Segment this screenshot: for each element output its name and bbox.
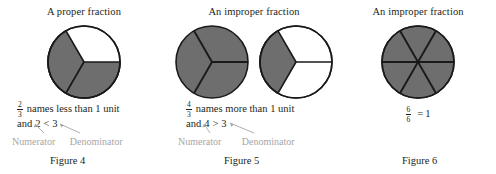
- right-value: 3: [52, 118, 57, 131]
- fraction-2-3: 2 3: [17, 101, 23, 118]
- fraction-numerator: 6: [406, 106, 412, 114]
- pie-row: [340, 24, 496, 104]
- panel-heading: An improper fraction: [340, 6, 496, 17]
- part-labels-row: Numerator Denominator: [0, 136, 180, 147]
- statement-line-1: 4 3 names more than 1 unit: [186, 101, 358, 118]
- equation-result: 1: [425, 108, 430, 119]
- panel-heading: A proper fraction: [0, 6, 168, 17]
- statement-line-2: and 2 < 3: [17, 118, 185, 131]
- pie-area: [168, 24, 340, 104]
- fraction-equation: 6 6 =1: [340, 106, 496, 123]
- statement-line-2: and 4 > 3: [186, 118, 358, 131]
- fraction-6-6: 6 6: [406, 106, 412, 123]
- statement-prefix: and: [186, 118, 201, 131]
- statement-text: names more than 1 unit: [196, 103, 295, 116]
- pie-chart-3-of-3: [174, 24, 250, 100]
- fraction-statement: 2 3 names less than 1 unit and 2 < 3: [0, 101, 185, 131]
- equation-relation: =: [417, 108, 423, 119]
- pie-area: [340, 24, 496, 104]
- fraction-numerator: 4: [186, 101, 192, 109]
- fraction-numerator: 2: [17, 101, 23, 109]
- pie-row: [168, 24, 340, 104]
- numerator-label: Numerator: [12, 136, 55, 147]
- fraction-denominator: 3: [17, 109, 23, 118]
- panel-heading: An improper fraction: [168, 6, 340, 17]
- denominator-label: Denominator: [242, 136, 295, 147]
- statement-text: names less than 1 unit: [27, 103, 120, 116]
- figure-panel-5: An improper fraction 4 3 names more th: [168, 0, 340, 174]
- statement-prefix: and: [17, 118, 32, 131]
- figure-panel-6: An improper fraction 6 6 =1 Figure 6: [340, 0, 496, 174]
- figure-panel-4: A proper fraction 2 3 names less than 1 …: [0, 0, 168, 174]
- pie-chart-1-of-3: [258, 24, 334, 100]
- pie-chart-2-of-3: [46, 24, 122, 100]
- relation-operator: <: [43, 118, 49, 131]
- left-value: 2: [35, 118, 40, 131]
- statement-line-1: 2 3 names less than 1 unit: [17, 101, 185, 118]
- denominator-label: Denominator: [70, 136, 123, 147]
- fraction-statement: 4 3 names more than 1 unit and 4 > 3: [168, 101, 358, 131]
- pie-row: [0, 24, 168, 104]
- pie-chart-6-of-6: [380, 24, 456, 100]
- right-value: 3: [221, 118, 226, 131]
- fraction-denominator: 6: [406, 114, 412, 123]
- fraction-4-3: 4 3: [186, 101, 192, 118]
- fraction-denominator: 3: [186, 109, 192, 118]
- pie-area: [0, 24, 168, 104]
- numerator-label: Numerator: [178, 136, 221, 147]
- left-value: 4: [204, 118, 209, 131]
- part-labels-row: Numerator Denominator: [168, 136, 350, 147]
- figure-caption: Figure 6: [340, 155, 496, 166]
- relation-operator: >: [212, 118, 218, 131]
